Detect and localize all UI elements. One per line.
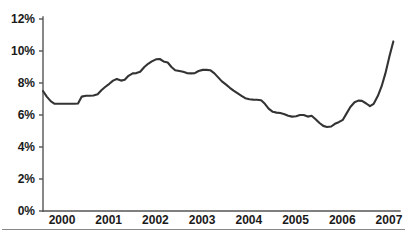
y-tick-label: 0% xyxy=(18,204,36,218)
x-tick-label: 2003 xyxy=(189,213,216,227)
y-tick-label: 6% xyxy=(18,108,36,122)
x-tick-label: 2006 xyxy=(329,213,356,227)
chart-figure: 0%2%4%6%8%10%12% 20002001200220032004200… xyxy=(0,0,407,238)
x-tick-label: 2002 xyxy=(142,213,169,227)
y-tick-label: 2% xyxy=(18,172,36,186)
x-axis-ticks: 20002001200220032004200520062007 xyxy=(49,213,403,227)
line-chart: 0%2%4%6%8%10%12% 20002001200220032004200… xyxy=(0,0,407,238)
x-tick-label: 2005 xyxy=(282,213,309,227)
data-series-group xyxy=(43,41,393,127)
series-line-rate xyxy=(43,41,393,127)
y-tick-label: 4% xyxy=(18,140,36,154)
x-tick-label: 2000 xyxy=(49,213,76,227)
y-tick-label: 10% xyxy=(11,44,35,58)
x-tick-label: 2007 xyxy=(376,213,403,227)
y-tick-label: 8% xyxy=(18,76,36,90)
x-tick-label: 2004 xyxy=(235,213,262,227)
y-axis-ticks: 0%2%4%6%8%10%12% xyxy=(11,12,43,218)
x-tick-label: 2001 xyxy=(95,213,122,227)
y-tick-label: 12% xyxy=(11,12,35,26)
